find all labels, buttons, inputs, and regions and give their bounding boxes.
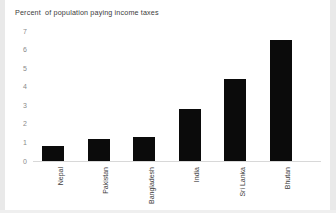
bar	[179, 109, 201, 161]
bar	[224, 79, 246, 161]
x-tick-label: India	[193, 167, 200, 182]
y-tick-label: 4	[13, 83, 27, 90]
x-tick-label: Sri Lanka	[239, 167, 246, 197]
x-tick-label: Bhutan	[284, 167, 291, 189]
x-tick-label: Pakistan	[102, 167, 109, 194]
y-tick-label: 1	[13, 139, 27, 146]
bar-chart-figure: Percent of population paying income taxe…	[0, 0, 336, 213]
bar	[42, 146, 64, 161]
plot-area: 76543210 NepalPakistanBangladeshIndiaSri…	[0, 0, 336, 213]
x-tick-label: Bangladesh	[148, 167, 155, 204]
y-tick-label: 6	[13, 46, 27, 53]
y-tick-label: 3	[13, 102, 27, 109]
x-tick-label: Nepal	[57, 167, 64, 185]
bar	[88, 139, 110, 161]
y-tick-label: 2	[13, 120, 27, 127]
y-tick-label: 0	[13, 158, 27, 165]
y-tick-label: 5	[13, 65, 27, 72]
axis-baseline-line	[33, 161, 321, 162]
y-tick-label: 7	[13, 28, 27, 35]
bar	[133, 137, 155, 161]
bar	[270, 40, 292, 161]
